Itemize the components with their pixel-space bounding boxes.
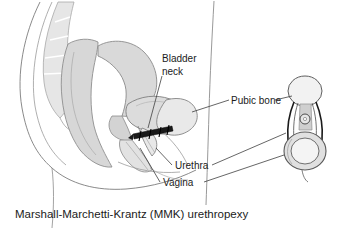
mmk-urethropexy-diagram (0, 0, 339, 229)
inset-ramus-left (288, 102, 294, 140)
label-urethra: Urethra (175, 160, 208, 171)
abdominal-wall (206, 1, 214, 205)
inset-pubic-bone (288, 76, 322, 106)
leader-urethra-right (212, 133, 286, 165)
figure-caption: Marshall-Marchetti-Krantz (MMK) urethrop… (15, 207, 248, 221)
label-pubic-bone: Pubic bone (231, 95, 281, 106)
label-vagina: Vagina (163, 177, 193, 188)
inset-urethra-lumen (303, 117, 306, 120)
leader-vagina-right (204, 155, 284, 182)
label-bladder-neck-line1: Bladder (162, 53, 196, 64)
leader-pubic-bone-left (192, 100, 229, 112)
label-bladder-neck-line2: neck (162, 66, 183, 77)
inset-ramus-right (316, 102, 322, 140)
inset-base-stem (302, 170, 308, 182)
leader-urethra-left (156, 148, 172, 165)
inset-vagina-ring-inner (291, 138, 319, 164)
pubic-bone-inset (284, 76, 326, 182)
